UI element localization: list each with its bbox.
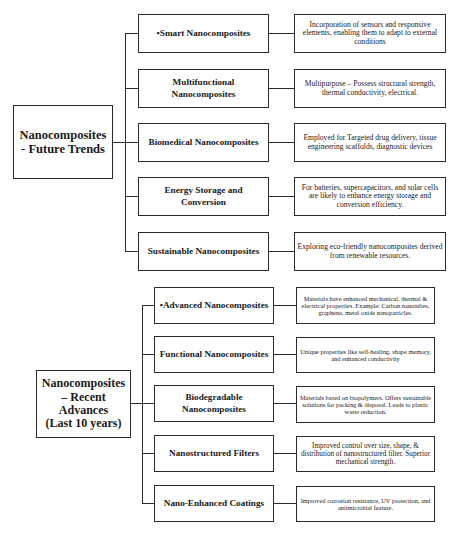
connector bbox=[268, 88, 295, 89]
connector bbox=[125, 88, 139, 89]
description-nano-enhanced-coatings: Improved corrosion resistance, UV protec… bbox=[296, 486, 435, 522]
category-advanced-nanocomposites: •Advanced Nanocomposites bbox=[154, 287, 274, 324]
category-energy-storage-conversion: Energy Storage and Conversion bbox=[138, 177, 269, 216]
category-smart-nanocomposites: •Smart Nanocomposites bbox=[138, 14, 269, 53]
future-trends-root-box: Nanocomposites - Future Trends bbox=[13, 105, 113, 179]
connector bbox=[268, 251, 295, 252]
description-biomedical-nanocomposites: Employed for Targeted drug delivery, tis… bbox=[294, 123, 446, 162]
category-label: •Advanced Nanocomposites bbox=[160, 300, 269, 311]
description-multifunctional-nanocomposites: Multipurpose – Possess structural streng… bbox=[294, 69, 446, 108]
description-text: For batteries, supercapacitors, and sola… bbox=[297, 184, 443, 210]
connector bbox=[125, 251, 139, 252]
category-nanostructured-filters: Nanostructured Filters bbox=[154, 435, 274, 472]
description-nanostructured-filters: Improved control over size, shape, & dis… bbox=[296, 436, 435, 472]
connector bbox=[273, 503, 297, 504]
recent-advances-root-box: Nanocomposites – Recent Advances (Last 1… bbox=[36, 370, 131, 438]
description-smart-nanocomposites: Incorporation of sensors and responsive … bbox=[294, 14, 446, 53]
category-functional-nanocomposites: Functional Nanocomposites bbox=[154, 336, 274, 373]
description-text: Employed for Targeted drug delivery, tis… bbox=[297, 134, 443, 151]
description-biodegradable-nanocomposites: Materials based on biopolymers. Offers s… bbox=[296, 386, 435, 423]
root-title-line: Nanocomposites bbox=[20, 128, 107, 142]
root-title-line: - Future Trends bbox=[20, 142, 107, 156]
connector bbox=[268, 142, 295, 143]
connector bbox=[125, 196, 139, 197]
description-text: Unique properties like self-healing, sha… bbox=[299, 348, 432, 362]
category-label: Functional Nanocomposites bbox=[160, 349, 268, 360]
description-text: Multipurpose – Possess structural streng… bbox=[297, 80, 443, 97]
category-label: Nanostructured Filters bbox=[169, 448, 259, 459]
connector bbox=[273, 453, 297, 454]
category-sustainable-nanocomposites: Sustainable Nanocomposites bbox=[138, 232, 269, 271]
category-label: Energy Storage and Conversion bbox=[142, 185, 265, 207]
connector bbox=[273, 305, 297, 306]
category-label: Biodegradable Nanocomposites bbox=[158, 392, 270, 414]
category-label: Sustainable Nanocomposites bbox=[148, 246, 260, 257]
connector bbox=[268, 33, 295, 34]
description-energy-storage-conversion: For batteries, supercapacitors, and sola… bbox=[294, 177, 446, 216]
root-title-line: (Last 10 years) bbox=[42, 417, 125, 430]
category-nano-enhanced-coatings: Nano-Enhanced Coatings bbox=[154, 485, 274, 522]
root-title-line: Advances bbox=[42, 404, 125, 417]
root-title-line: – Recent bbox=[42, 391, 125, 404]
category-label: Nano-Enhanced Coatings bbox=[164, 498, 264, 509]
category-label: Biomedical Nanocomposites bbox=[149, 137, 259, 148]
description-text: Improved corrosion resistance, UV protec… bbox=[299, 497, 432, 511]
connector bbox=[268, 196, 295, 197]
description-text: Materials based on biopolymers. Offers s… bbox=[299, 394, 432, 416]
connector bbox=[125, 33, 139, 34]
connector bbox=[142, 305, 143, 504]
category-biomedical-nanocomposites: Biomedical Nanocomposites bbox=[138, 123, 269, 162]
connector bbox=[125, 142, 139, 143]
description-functional-nanocomposites: Unique properties like self-healing, sha… bbox=[296, 337, 435, 373]
description-advanced-nanocomposites: Materials have enhanced mechanical, ther… bbox=[296, 287, 435, 324]
description-text: Incorporation of sensors and responsive … bbox=[297, 21, 443, 47]
category-multifunctional-nanocomposites: Multifunctional Nanocomposites bbox=[138, 69, 269, 108]
description-text: Materials have enhanced mechanical, ther… bbox=[299, 295, 432, 317]
connector bbox=[273, 354, 297, 355]
description-sustainable-nanocomposites: Exploring eco-friendly nanocomposites de… bbox=[294, 232, 446, 271]
connector bbox=[273, 403, 297, 404]
category-label: Multifunctional Nanocomposites bbox=[142, 77, 265, 99]
category-biodegradable-nanocomposites: Biodegradable Nanocomposites bbox=[154, 385, 274, 422]
category-label: •Smart Nanocomposites bbox=[157, 28, 251, 39]
description-text: Exploring eco-friendly nanocomposites de… bbox=[297, 243, 443, 260]
root-title-line: Nanocomposites bbox=[42, 377, 125, 390]
description-text: Improved control over size, shape, & dis… bbox=[299, 442, 432, 466]
